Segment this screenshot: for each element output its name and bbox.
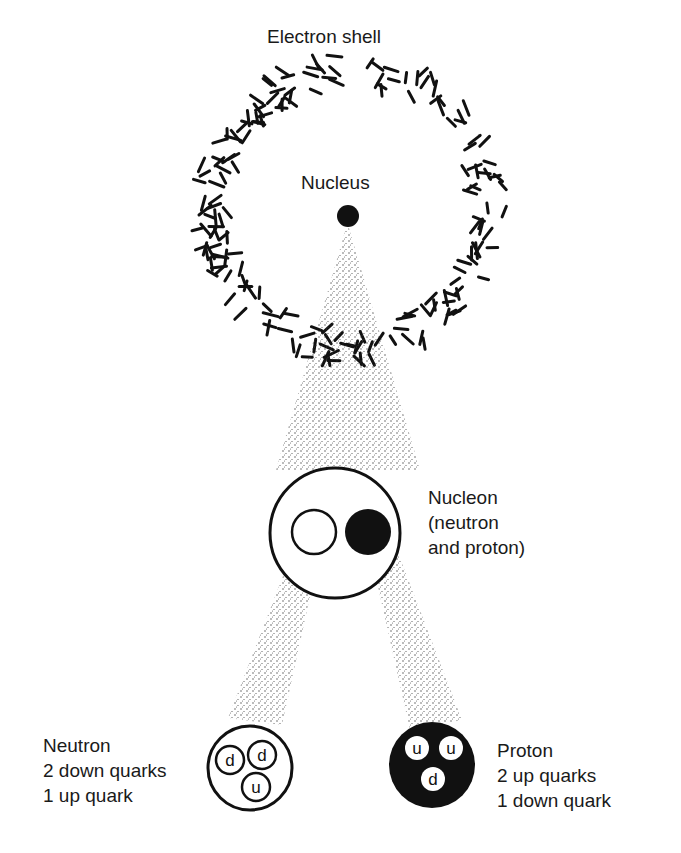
quark-label: d [225,751,234,770]
quark-label: u [446,739,455,758]
proton-label-line3: 1 down quark [497,788,611,813]
proton-small [345,509,391,555]
nucleon-label-line1: Nucleon [428,485,525,510]
proton-label: Proton 2 up quarks 1 down quark [497,738,611,813]
proton-label-line2: 2 up quarks [497,763,611,788]
neutron-label: Neutron 2 down quarks 1 up quark [43,733,167,808]
nucleon-label-line2: (neutron [428,510,525,535]
quark-label: u [412,739,421,758]
nucleon-label-line3: and proton) [428,535,525,560]
nucleus-label: Nucleus [301,170,370,195]
proton-label-line1: Proton [497,738,611,763]
quark-label: u [251,778,260,797]
neutron-label-line2: 2 down quarks [43,758,167,783]
neutron-label-line1: Neutron [43,733,167,758]
quark-label: d [428,770,437,789]
proton-circle [389,722,475,808]
electron-shell-label: Electron shell [267,24,381,49]
nucleon-label: Nucleon (neutron and proton) [428,485,525,560]
atom-structure-diagram: d d u u u d [0,0,681,853]
neutron-label-line3: 1 up quark [43,783,167,808]
nucleus-dot [337,205,359,227]
quark-label: d [257,746,266,765]
neutron-small [292,510,336,554]
